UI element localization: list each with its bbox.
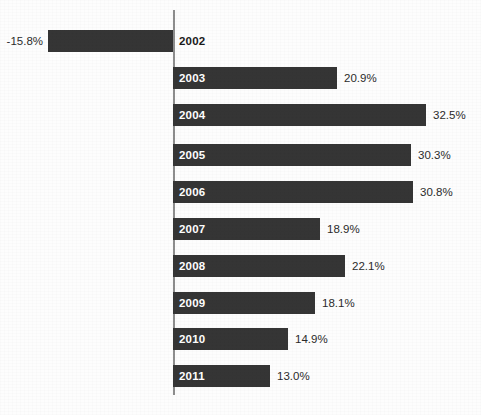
- category-label-2010: 2010: [179, 328, 205, 350]
- plot-area: 2002-15.8%200320.9%200432.5%200530.3%200…: [0, 0, 481, 415]
- value-label-2003: 20.9%: [344, 67, 377, 89]
- bar-2006: [173, 181, 413, 203]
- bar-row: 200822.1%: [0, 255, 481, 277]
- category-label-2011: 2011: [179, 365, 205, 387]
- value-label-2010: 14.9%: [295, 328, 328, 350]
- value-label-2007: 18.9%: [327, 218, 360, 240]
- value-label-2006: 30.8%: [420, 181, 453, 203]
- bar-row: 200530.3%: [0, 144, 481, 166]
- value-label-2004: 32.5%: [433, 104, 466, 126]
- category-label-2002: 2002: [179, 30, 205, 52]
- value-label-2002: -15.8%: [4, 30, 43, 52]
- bar-chart: 2002-15.8%200320.9%200432.5%200530.3%200…: [0, 0, 481, 415]
- category-label-2009: 2009: [179, 292, 205, 314]
- bar-row: 2002-15.8%: [0, 30, 481, 52]
- bar-2002: [48, 30, 173, 52]
- bar-row: 200718.9%: [0, 218, 481, 240]
- bar-2005: [173, 144, 411, 166]
- category-label-2008: 2008: [179, 255, 205, 277]
- value-label-2008: 22.1%: [352, 255, 385, 277]
- bar-row: 200320.9%: [0, 67, 481, 89]
- bar-row: 201014.9%: [0, 328, 481, 350]
- bar-row: 201113.0%: [0, 365, 481, 387]
- category-label-2007: 2007: [179, 218, 205, 240]
- category-label-2003: 2003: [179, 67, 205, 89]
- value-label-2011: 13.0%: [277, 365, 310, 387]
- bar-row: 200630.8%: [0, 181, 481, 203]
- category-label-2005: 2005: [179, 144, 205, 166]
- bar-row: 200432.5%: [0, 104, 481, 126]
- bar-row: 200918.1%: [0, 292, 481, 314]
- category-label-2006: 2006: [179, 181, 205, 203]
- bar-2004: [173, 104, 426, 126]
- value-label-2005: 30.3%: [418, 144, 451, 166]
- value-label-2009: 18.1%: [322, 292, 355, 314]
- category-label-2004: 2004: [179, 104, 205, 126]
